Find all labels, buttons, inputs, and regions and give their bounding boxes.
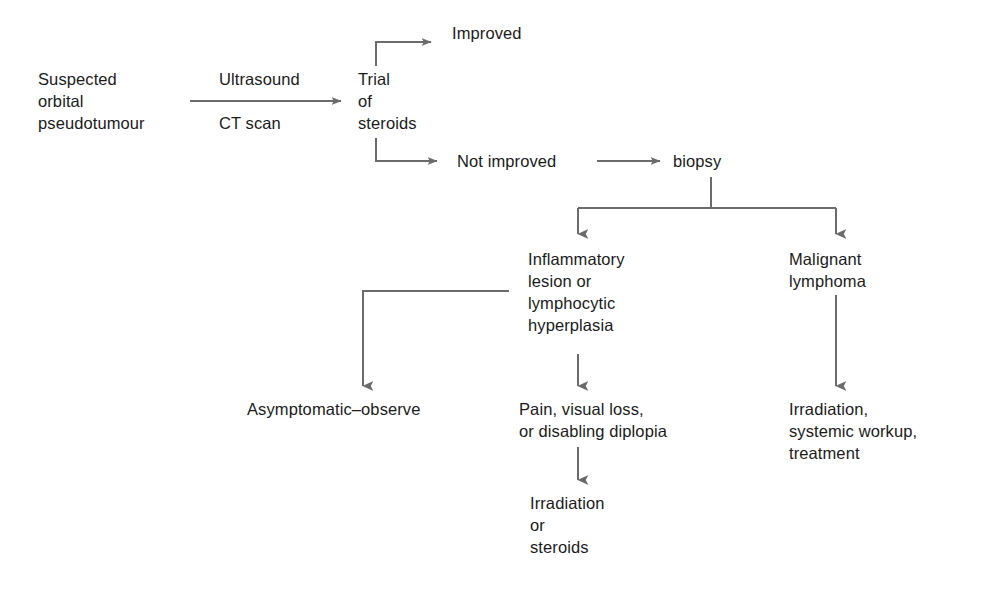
node-pain-visual-loss: Pain, visual loss, or disabling diplopia — [519, 398, 667, 442]
edge-label-ct-scan: CT scan — [219, 112, 281, 134]
node-suspected-orbital-pseudotumour: Suspected orbital pseudotumour — [38, 68, 145, 134]
node-malignant-lymphoma: Malignant lymphoma — [789, 248, 866, 292]
node-irradiation-systemic-workup: Irradiation, systemic workup, treatment — [789, 398, 917, 464]
edge-label-ultrasound: Ultrasound — [219, 68, 300, 90]
node-improved: Improved — [452, 22, 522, 44]
edge-inflammatory-to-asymptomatic — [363, 291, 509, 386]
edge-trial-to-not-improved — [376, 138, 437, 161]
node-biopsy: biopsy — [673, 150, 721, 172]
flowchart-connectors — [0, 0, 987, 596]
node-asymptomatic-observe: Asymptomatic–observe — [247, 398, 421, 420]
node-not-improved: Not improved — [457, 150, 556, 172]
node-trial-of-steroids: Trial of steroids — [358, 68, 417, 134]
node-inflammatory-lesion: Inflammatory lesion or lymphocytic hyper… — [528, 248, 625, 336]
diagram-canvas: Suspected orbital pseudotumour Ultrasoun… — [0, 0, 987, 596]
node-irradiation-or-steroids: Irradiation or steroids — [530, 492, 604, 558]
edge-trial-to-improved — [376, 42, 431, 66]
